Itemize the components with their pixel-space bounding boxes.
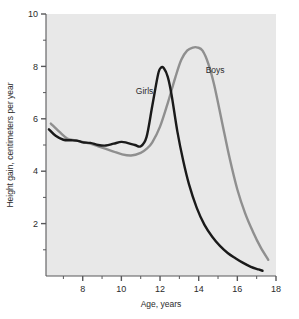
series-label-boys: Boys (206, 65, 225, 75)
x-tick-label: 18 (271, 284, 281, 294)
series-label-girls: Girls (136, 86, 153, 96)
x-tick-label: 14 (194, 284, 204, 294)
y-tick-label: 8 (33, 62, 38, 72)
x-axis-title: Age, years (141, 299, 182, 309)
y-tick-label: 2 (33, 219, 38, 229)
x-tick-label: 16 (232, 284, 242, 294)
x-tick-label: 12 (155, 284, 165, 294)
chart-canvas: 246810 81012141618 GirlsBoys Age, years … (0, 0, 299, 319)
plot-area-background (46, 14, 276, 276)
y-tick-label: 4 (33, 166, 38, 176)
x-tick-label: 10 (116, 284, 126, 294)
growth-velocity-chart: 246810 81012141618 GirlsBoys Age, years … (0, 0, 299, 319)
y-tick-label: 10 (28, 9, 38, 19)
y-axis-title: Height gain, centimeters per year (5, 82, 15, 207)
x-tick-label: 8 (80, 284, 85, 294)
y-tick-label: 6 (33, 114, 38, 124)
